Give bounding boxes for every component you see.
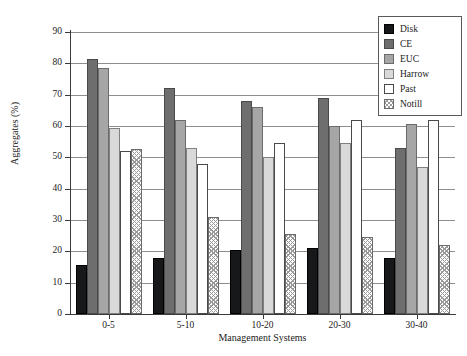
legend-label: EUC [400, 54, 419, 64]
bar-harrow-0-5[interactable] [109, 128, 120, 314]
x-tick [109, 314, 110, 319]
x-tick [340, 314, 341, 319]
bar-group [153, 32, 219, 314]
bar-past-5-10[interactable] [197, 164, 208, 314]
bar-ce-20-30[interactable] [318, 98, 329, 314]
legend-label: Past [400, 84, 416, 94]
bar-harrow-5-10[interactable] [186, 148, 197, 314]
bar-notill-10-20[interactable] [285, 234, 296, 314]
bar-past-30-40[interactable] [428, 120, 439, 314]
bar-euc-20-30[interactable] [329, 126, 340, 314]
x-tick-label: 30-40 [387, 320, 447, 330]
bar-ce-30-40[interactable] [395, 148, 406, 314]
legend-swatch-past-icon [384, 84, 394, 94]
y-tick-label: 70 [38, 90, 62, 99]
x-tick-label: 10-20 [233, 320, 293, 330]
bar-group-inner [153, 32, 219, 314]
x-tick [263, 314, 264, 319]
bar-notill-5-10[interactable] [208, 217, 219, 314]
legend-label: CE [400, 39, 412, 49]
y-tick-label: 50 [38, 152, 62, 161]
bar-group [76, 32, 142, 314]
legend-swatch-euc-icon [384, 54, 394, 64]
y-tick-label: 40 [38, 184, 62, 193]
bar-past-20-30[interactable] [351, 120, 362, 314]
bar-group-inner [76, 32, 142, 314]
bar-group [307, 32, 373, 314]
bar-notill-30-40[interactable] [439, 245, 450, 314]
bar-disk-5-10[interactable] [153, 258, 164, 314]
bar-ce-0-5[interactable] [87, 59, 98, 314]
bar-ce-5-10[interactable] [164, 88, 175, 314]
legend-swatch-ce-icon [384, 39, 394, 49]
y-tick-label: 30 [38, 215, 62, 224]
legend-item-harrow[interactable]: Harrow [384, 66, 457, 81]
legend: DiskCEEUCHarrowPastNotill [378, 16, 462, 116]
y-tick-label: 90 [38, 27, 62, 36]
bar-group [230, 32, 296, 314]
bar-disk-30-40[interactable] [384, 258, 395, 314]
bar-harrow-30-40[interactable] [417, 167, 428, 314]
x-tick-label: 20-30 [310, 320, 370, 330]
legend-item-euc[interactable]: EUC [384, 51, 457, 66]
legend-swatch-disk-icon [384, 24, 394, 34]
bar-notill-0-5[interactable] [131, 149, 142, 314]
bar-past-0-5[interactable] [120, 151, 131, 314]
y-tick-label: 80 [38, 58, 62, 67]
bar-disk-10-20[interactable] [230, 250, 241, 314]
bar-disk-0-5[interactable] [76, 265, 87, 314]
x-tick [417, 314, 418, 319]
x-tick [186, 314, 187, 319]
legend-item-past[interactable]: Past [384, 81, 457, 96]
bar-group-inner [307, 32, 373, 314]
legend-item-ce[interactable]: CE [384, 36, 457, 51]
bar-ce-10-20[interactable] [241, 101, 252, 314]
bar-harrow-10-20[interactable] [263, 157, 274, 314]
legend-label: Notill [400, 99, 422, 109]
bar-past-10-20[interactable] [274, 143, 285, 314]
legend-item-disk[interactable]: Disk [384, 21, 457, 36]
y-axis-title: Aggregates (%) [9, 74, 20, 194]
y-tick-label: 0 [38, 309, 62, 318]
y-tick-label: 20 [38, 246, 62, 255]
legend-label: Harrow [400, 69, 429, 79]
bar-euc-30-40[interactable] [406, 124, 417, 314]
x-axis-title: Management Systems [70, 332, 455, 343]
bar-notill-20-30[interactable] [362, 237, 373, 314]
y-tick-label: 10 [38, 278, 62, 287]
x-tick-label: 0-5 [79, 320, 139, 330]
legend-item-notill[interactable]: Notill [384, 96, 457, 111]
y-tick-label: 60 [38, 121, 62, 130]
legend-label: Disk [400, 24, 418, 34]
bar-group-inner [230, 32, 296, 314]
bar-euc-10-20[interactable] [252, 107, 263, 314]
x-tick-label: 5-10 [156, 320, 216, 330]
bar-euc-5-10[interactable] [175, 120, 186, 314]
bar-disk-20-30[interactable] [307, 248, 318, 314]
legend-swatch-notill-icon [384, 99, 394, 109]
bar-chart: 0102030405060708090 0-55-1010-2020-3030-… [0, 0, 467, 356]
bar-harrow-20-30[interactable] [340, 143, 351, 314]
legend-swatch-harrow-icon [384, 69, 394, 79]
bar-euc-0-5[interactable] [98, 68, 109, 314]
